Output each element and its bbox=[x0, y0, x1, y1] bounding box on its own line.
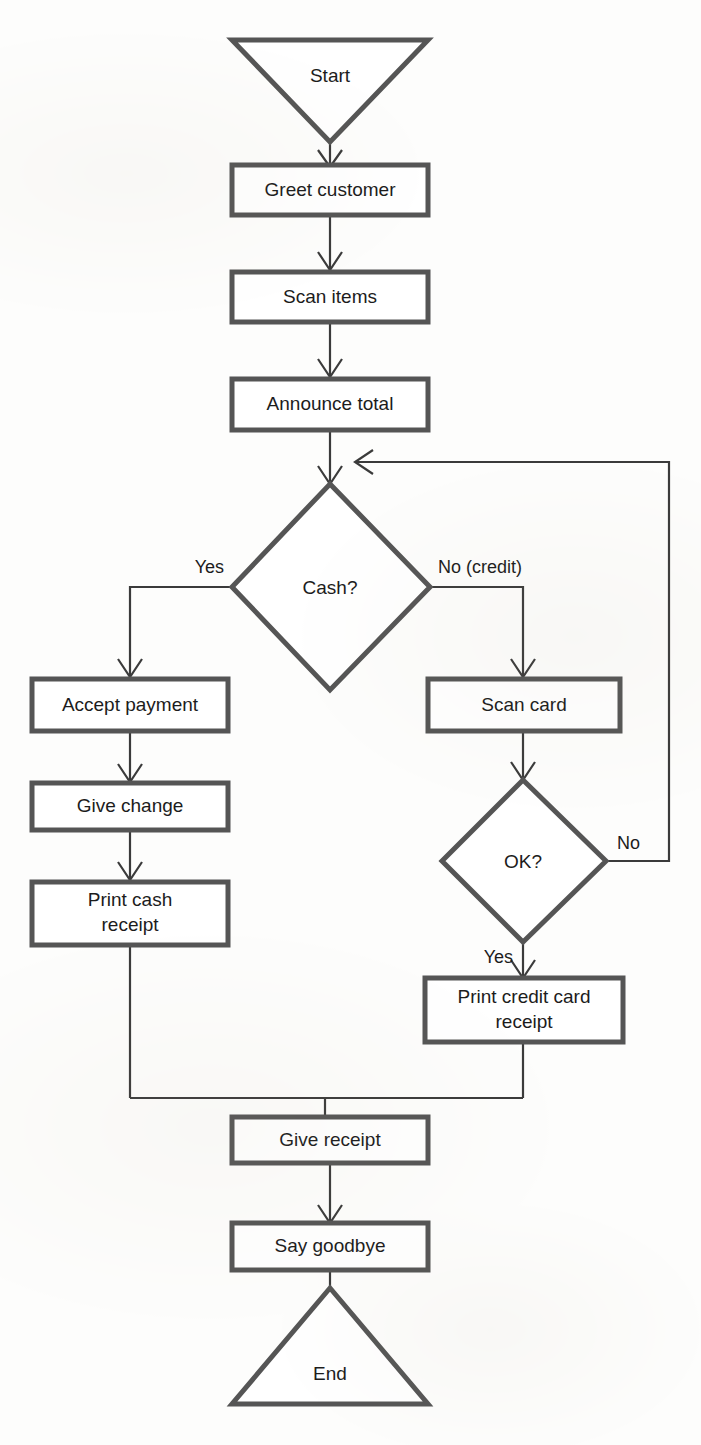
node-give-receipt[interactable]: Give receipt bbox=[232, 1117, 428, 1163]
node-greet-customer[interactable]: Greet customer bbox=[232, 165, 428, 215]
edge-scan-card-to-ok-decision bbox=[511, 731, 535, 780]
node-give-change[interactable]: Give change bbox=[32, 783, 228, 830]
edge-accept-payment-to-give-change bbox=[118, 731, 142, 782]
edge-give-receipt-to-say-goodbye bbox=[318, 1163, 342, 1223]
edge-label-cash-no: No (credit) bbox=[438, 557, 522, 577]
node-scan-card[interactable]: Scan card bbox=[428, 679, 620, 731]
node-give-change-label: Give change bbox=[77, 795, 184, 816]
node-cash-decision-label: Cash? bbox=[303, 577, 358, 598]
edge-give-change-to-print-cash-receipt bbox=[118, 830, 142, 880]
node-print-credit-receipt-label-line1: Print credit card bbox=[457, 986, 590, 1007]
node-start[interactable]: Start bbox=[232, 40, 428, 142]
edge-label-ok-yes: Yes bbox=[484, 947, 513, 967]
edge-cash-no-to-scan-card bbox=[430, 587, 535, 677]
node-announce-total-label: Announce total bbox=[267, 393, 394, 414]
edge-cash-yes-to-accept-payment bbox=[118, 587, 232, 677]
edge-label-ok-no: No bbox=[617, 833, 640, 853]
edge-ok-yes-to-print-credit-receipt bbox=[511, 942, 535, 978]
node-ok-decision-label: OK? bbox=[504, 851, 542, 872]
edge-merge-to-give-receipt bbox=[130, 1098, 523, 1117]
node-give-receipt-label: Give receipt bbox=[279, 1129, 381, 1150]
node-print-cash-receipt-label-line2: receipt bbox=[101, 914, 159, 935]
flowchart-canvas: Start Greet customer Scan items Announce… bbox=[0, 0, 701, 1445]
edge-scan-items-to-announce-total bbox=[318, 322, 342, 377]
node-print-cash-receipt[interactable]: Print cash receipt bbox=[32, 882, 228, 945]
node-greet-customer-label: Greet customer bbox=[265, 179, 397, 200]
node-end[interactable]: End bbox=[232, 1288, 428, 1404]
node-announce-total[interactable]: Announce total bbox=[232, 379, 428, 430]
node-print-credit-receipt[interactable]: Print credit card receipt bbox=[425, 978, 623, 1042]
node-ok-decision[interactable]: OK? bbox=[442, 780, 606, 942]
node-scan-items-label: Scan items bbox=[283, 286, 377, 307]
edge-announce-total-to-cash-decision bbox=[318, 430, 342, 484]
node-start-label: Start bbox=[310, 65, 351, 86]
flowchart-svg: Start Greet customer Scan items Announce… bbox=[0, 0, 701, 1445]
node-scan-items[interactable]: Scan items bbox=[232, 272, 428, 322]
edge-greet-customer-to-scan-items bbox=[318, 215, 342, 270]
node-print-credit-receipt-label-line2: receipt bbox=[495, 1011, 553, 1032]
node-end-label: End bbox=[313, 1363, 347, 1384]
node-accept-payment-label: Accept payment bbox=[62, 694, 199, 715]
node-print-cash-receipt-label-line1: Print cash bbox=[88, 889, 172, 910]
edge-label-cash-yes: Yes bbox=[195, 557, 224, 577]
node-accept-payment[interactable]: Accept payment bbox=[32, 679, 228, 731]
node-cash-decision[interactable]: Cash? bbox=[232, 484, 430, 690]
node-scan-card-label: Scan card bbox=[481, 694, 567, 715]
node-say-goodbye-label: Say goodbye bbox=[275, 1235, 386, 1256]
node-say-goodbye[interactable]: Say goodbye bbox=[232, 1223, 428, 1270]
